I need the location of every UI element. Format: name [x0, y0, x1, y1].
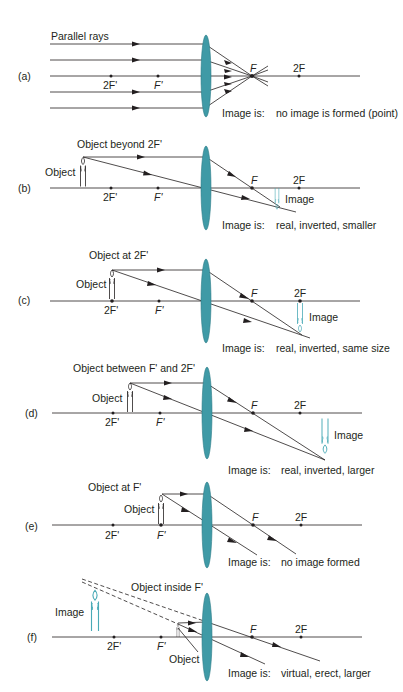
image-candle — [322, 419, 328, 454]
svg-text:2F: 2F — [294, 399, 306, 411]
object-candle — [128, 383, 133, 412]
image-candle — [275, 188, 279, 209]
svg-text:2F: 2F — [295, 511, 307, 523]
svg-text:Image is:: Image is: — [228, 556, 271, 568]
svg-text:Image is:: Image is: — [228, 464, 271, 476]
svg-text:2F: 2F — [293, 174, 305, 186]
panel-c-caption: Object at 2F' — [89, 249, 148, 261]
image-label: Image — [309, 311, 338, 323]
svg-text:Image is:: Image is: — [222, 342, 265, 354]
panel-a: Parallel rays (a) — [18, 30, 398, 119]
panel-c: Object at 2F' (c) Object 2F' F' F 2F Ima… — [18, 249, 390, 354]
object-label: Object — [124, 503, 154, 515]
point-2f-prime — [110, 75, 113, 78]
panel-c-result: real, inverted, same size — [276, 342, 390, 354]
svg-text:2F': 2F' — [104, 304, 118, 316]
svg-text:F: F — [251, 174, 258, 186]
panel-c-tag: (c) — [18, 294, 30, 306]
svg-text:F': F' — [155, 304, 164, 316]
image-label: Image — [285, 193, 314, 205]
image-candle — [298, 303, 303, 332]
svg-text:F': F' — [154, 191, 163, 203]
svg-text:2F: 2F — [294, 287, 306, 299]
svg-text:2F: 2F — [295, 623, 307, 635]
label-2f: 2F — [293, 62, 305, 74]
svg-text:F: F — [252, 511, 259, 523]
label-f: F — [250, 62, 257, 74]
svg-text:F: F — [250, 623, 257, 635]
svg-text:2F': 2F' — [107, 640, 121, 652]
svg-text:Image is:: Image is: — [222, 219, 265, 231]
object-candle — [110, 270, 115, 299]
panel-f-result: virtual, erect, larger — [281, 667, 371, 679]
object-label: Object — [76, 278, 106, 290]
image-label: Image — [334, 429, 363, 441]
panel-d-caption: Object between F' and 2F' — [73, 362, 195, 374]
svg-text:F': F' — [156, 416, 165, 428]
image-label: Image — [55, 606, 84, 618]
object-label: Object — [45, 166, 75, 178]
panel-a-result: no image is formed (point) — [276, 107, 398, 119]
panel-f-tag: (f) — [27, 631, 37, 643]
label-f-prime: F' — [154, 79, 163, 91]
object-label: Object — [92, 392, 122, 404]
svg-text:F': F' — [157, 529, 166, 541]
panel-b-caption: Object beyond 2F' — [77, 138, 162, 150]
point-f — [250, 74, 254, 78]
object-candle — [159, 495, 164, 524]
svg-text:2F': 2F' — [105, 416, 119, 428]
panel-b-result: real, inverted, smaller — [276, 219, 377, 231]
panel-a-tag: (a) — [18, 70, 31, 82]
lens-ray-diagram: Parallel rays (a) — [0, 0, 403, 692]
svg-text:2F': 2F' — [105, 529, 119, 541]
svg-text:F: F — [251, 287, 258, 299]
panel-e: Object at F' (e) Object 2F' F' F 2F Imag… — [25, 481, 362, 568]
virtual-image-candle — [92, 590, 99, 631]
panel-b-tag: (b) — [18, 182, 31, 194]
object-label: Object — [169, 653, 199, 665]
panel-d-tag: (d) — [25, 407, 38, 419]
svg-text:F: F — [251, 399, 258, 411]
point-f-prime — [157, 75, 160, 78]
converging-lens — [201, 35, 211, 117]
panel-d: Object between F' and 2F' (d) Object 2F'… — [25, 362, 375, 476]
panel-d-result: real, inverted, larger — [281, 464, 375, 476]
svg-text:F': F' — [157, 640, 166, 652]
panel-e-caption: Object at F' — [88, 481, 141, 493]
svg-text:Image is:: Image is: — [228, 667, 271, 679]
svg-text:2F': 2F' — [103, 191, 117, 203]
panel-e-tag: (e) — [25, 520, 38, 532]
object-candle — [81, 158, 86, 187]
panel-a-caption: Parallel rays — [51, 30, 109, 42]
panel-e-result: no image formed — [281, 556, 360, 568]
label-2f-prime: 2F' — [103, 79, 117, 91]
image-is-label: Image is: — [222, 107, 265, 119]
object-candle — [177, 623, 179, 637]
panel-b: Object beyond 2F' (b) Object 2F' F' F 2F… — [18, 138, 377, 231]
point-2f — [298, 75, 301, 78]
panel-f: Object inside F' (f) Image Object 2F' F'… — [27, 579, 371, 681]
panel-f-caption: Object inside F' — [131, 581, 203, 593]
